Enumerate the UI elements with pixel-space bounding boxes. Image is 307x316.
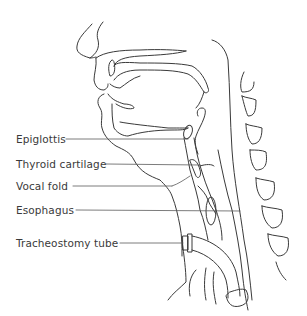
- epiglottis-shape: [182, 124, 194, 140]
- label-esophagus: Esophagus: [16, 205, 74, 216]
- vocal-fold: [200, 165, 214, 167]
- posterior-pharynx-2: [218, 150, 248, 310]
- floor-of-mouth: [120, 122, 188, 128]
- chest-tissue-2: [205, 268, 207, 300]
- airway-front: [184, 138, 208, 240]
- label-tracheostomy-tube: Tracheostomy tube: [16, 238, 118, 249]
- chest-tissue-3: [213, 272, 216, 304]
- pharynx-back: [195, 108, 205, 154]
- lower-lip-chin: [98, 94, 182, 256]
- tongue: [112, 104, 188, 136]
- vocal-fold-leader-bend: [172, 176, 190, 186]
- upper-lip: [94, 58, 108, 90]
- chest-tissue-1: [189, 270, 196, 296]
- nasal-turbinate-2: [114, 62, 209, 92]
- label-vocal-fold: Vocal fold: [16, 181, 68, 192]
- label-thyroid-cartilage: Thyroid cartilage: [16, 159, 106, 170]
- leader-lines: [66, 139, 240, 243]
- label-epiglottis: Epiglottis: [16, 134, 66, 145]
- palate-curve: [110, 76, 140, 88]
- soft-palate: [196, 92, 204, 108]
- esophagus-leader: [76, 210, 240, 211]
- thyroid-cartilage-leader: [106, 164, 200, 165]
- cricoid: [198, 186, 216, 214]
- incisor-upper: [109, 60, 115, 76]
- nose-bridge: [90, 22, 103, 58]
- nose-outline: [77, 24, 96, 58]
- posterior-pharynx: [212, 40, 252, 300]
- cervical-spine: [241, 72, 289, 280]
- anatomy-diagram: Epiglottis Thyroid cartilage Vocal fold …: [0, 0, 307, 316]
